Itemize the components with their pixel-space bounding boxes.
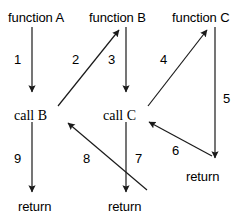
edge-label-7: 7 — [135, 152, 142, 165]
edge-label-5: 5 — [223, 92, 230, 105]
edge-line-6 — [149, 122, 212, 156]
node-function-b: function B — [89, 11, 146, 24]
edge-label-1: 1 — [14, 53, 21, 66]
edge-line-2 — [58, 30, 119, 106]
node-function-a: function A — [8, 11, 64, 24]
call-sequence-diagram: function A function B function C call B … — [0, 0, 248, 217]
node-return-right: return — [186, 170, 219, 183]
node-function-c: function C — [172, 11, 230, 24]
edge-label-9: 9 — [14, 152, 21, 165]
edge-label-8: 8 — [83, 152, 90, 165]
node-call-b: call B — [14, 109, 47, 123]
node-call-c: call C — [103, 109, 136, 123]
edge-label-2: 2 — [72, 53, 79, 66]
node-return-middle: return — [108, 200, 141, 213]
node-return-left: return — [18, 200, 51, 213]
edge-label-6: 6 — [172, 144, 179, 157]
edge-label-4: 4 — [160, 53, 167, 66]
edge-label-3: 3 — [108, 53, 115, 66]
edge-line-4 — [148, 30, 207, 106]
